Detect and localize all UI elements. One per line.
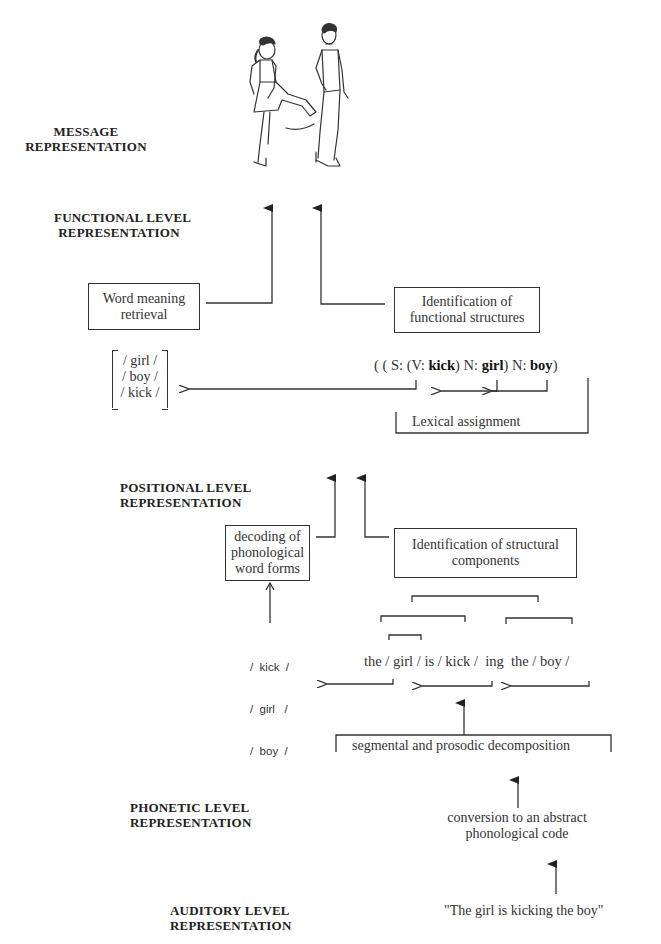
box-line: phonological	[231, 545, 304, 561]
box-line: Word meaning	[103, 291, 185, 307]
box-line: Identification of	[422, 294, 513, 310]
box-line: functional structures	[410, 310, 525, 326]
arrow-structural-components-to-functional	[365, 478, 389, 537]
message-representation-label: MESSAGE REPRESENTATION	[24, 124, 148, 154]
label-line: REPRESENTATION	[130, 815, 252, 830]
lexicon-item: / boy /	[113, 369, 167, 385]
girl-kicking-boy-illustration	[230, 20, 370, 180]
lexicon-list: / girl / / boy / / kick /	[112, 350, 168, 408]
identification-functional-structures-box: Identification of functional structures	[394, 287, 540, 333]
formula-part: )	[553, 357, 558, 373]
arrow-decoding-to-functional	[316, 478, 335, 537]
conversion-line: conversion to an abstract	[412, 810, 622, 826]
phonetic-level-label: PHONETIC LEVEL REPRESENTATION	[130, 800, 252, 830]
label-line: REPRESENTATION	[54, 225, 184, 240]
phonological-word-forms-list: / kick / / girl / / boy /	[250, 632, 289, 772]
lexicon-bracket-left	[112, 350, 118, 410]
formula-noun-subject: girl	[482, 357, 504, 373]
box-line: word forms	[235, 561, 300, 577]
formula-noun-object: boy	[530, 357, 553, 373]
word-form-item: / boy /	[250, 744, 289, 758]
formula-part: ) N:	[503, 357, 530, 373]
word-form-item: / kick /	[250, 660, 289, 674]
word-form-item: / girl /	[250, 702, 289, 716]
label-line: AUDITORY LEVEL	[170, 903, 292, 918]
box-line: decoding of	[234, 529, 300, 545]
label-line: FUNCTIONAL LEVEL	[54, 210, 184, 225]
arrow-word-meaning-to-message	[206, 208, 272, 303]
auditory-level-label: AUDITORY LEVEL REPRESENTATION	[170, 903, 292, 933]
functional-structure-formula: ( ( S: (V: kick) N: girl) N: boy)	[374, 357, 557, 373]
formula-part: ( ( S: (V:	[374, 357, 429, 373]
label-line: MESSAGE	[24, 124, 148, 139]
auditory-input-sentence: "The girl is kicking the boy"	[444, 903, 604, 919]
label-line: REPRESENTATION	[170, 918, 292, 933]
formula-part: ) N:	[455, 357, 482, 373]
label-line: POSITIONAL LEVEL	[120, 480, 251, 495]
word-meaning-retrieval-box: Word meaning retrieval	[88, 283, 200, 330]
box-line: retrieval	[121, 307, 168, 323]
conversion-abstract-phonological-code: conversion to an abstract phonological c…	[412, 810, 622, 842]
label-line: PHONETIC LEVEL	[130, 800, 252, 815]
functional-level-label: FUNCTIONAL LEVEL REPRESENTATION	[54, 210, 184, 240]
segmented-sentence: the / girl / is / kick / ing the / boy /	[364, 653, 569, 669]
lexicon-item: / kick /	[113, 385, 167, 401]
lexical-assignment-label: Lexical assignment	[412, 414, 520, 430]
box-line: Identification of structural	[412, 537, 559, 553]
formula-verb: kick	[429, 357, 456, 373]
identification-structural-components-box: Identification of structural components	[394, 528, 577, 578]
positional-level-label: POSITIONAL LEVEL REPRESENTATION	[120, 480, 251, 510]
lexicon-item: / girl /	[113, 353, 167, 369]
arrow-functional-structures-to-message	[321, 208, 385, 304]
label-line: REPRESENTATION	[24, 139, 148, 154]
label-line: REPRESENTATION	[120, 495, 251, 510]
segmental-prosodic-decomposition-label: segmental and prosodic decomposition	[352, 738, 570, 754]
decoding-phonological-word-forms-box: decoding of phonological word forms	[225, 525, 310, 581]
box-line: components	[452, 553, 520, 569]
conversion-line: phonological code	[412, 826, 622, 842]
lexicon-bracket-right	[162, 350, 168, 410]
